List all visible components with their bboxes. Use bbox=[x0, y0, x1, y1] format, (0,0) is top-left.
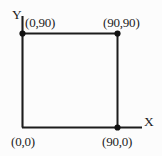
diagram-canvas: (0,90) (90,90) (0,0) (90,0) Y X bbox=[0, 0, 162, 156]
vertex-dot-top-left bbox=[19, 30, 25, 36]
vertex-dot-top-right bbox=[114, 30, 120, 36]
vertex-label-bottom-left: (0,0) bbox=[11, 135, 35, 149]
vertex-dot-bottom-right bbox=[114, 124, 120, 130]
vertex-label-bottom-right: (90,0) bbox=[102, 135, 132, 149]
y-axis-label: Y bbox=[12, 8, 22, 22]
vertex-label-top-right: (90,90) bbox=[103, 16, 140, 30]
vertex-label-top-left: (0,90) bbox=[25, 16, 55, 30]
x-axis-label: X bbox=[144, 115, 154, 129]
